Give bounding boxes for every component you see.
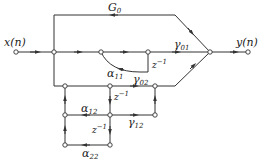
alpha12-label: α12 [81,102,98,116]
delay2-label: z−1 [113,90,129,102]
gamma02-label: γ02 [133,73,149,87]
alpha22-label: α22 [82,147,99,161]
node-output [246,50,250,54]
node-sum [208,50,212,54]
node-b [146,50,150,54]
node-split [52,50,56,54]
branch-delay1 [140,52,148,72]
delay1-label: z−1 [151,58,167,70]
output-label: y(n) [235,36,258,49]
g0-label: G0 [108,1,122,15]
gamma01-label: γ01 [174,38,190,52]
gamma12-label: γ12 [128,116,144,130]
signal-flow-graph: x(n) y(n) G0 γ01 γ02 α11 α12 γ12 α22 z−1… [0,0,269,161]
branch-bottom [54,52,210,86]
node-a [99,50,103,54]
input-label: x(n) [4,36,26,49]
node-input [14,50,18,54]
delay3-label: z−1 [91,123,107,135]
